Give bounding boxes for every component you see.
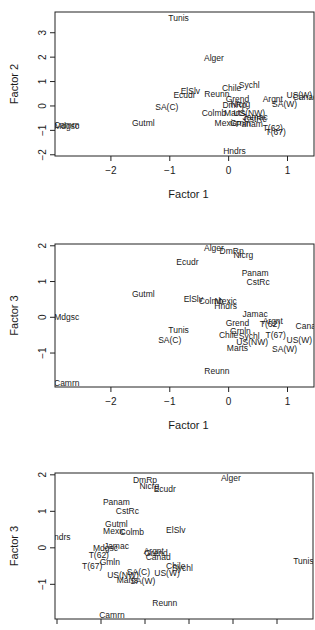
point-label: SA(W) (272, 344, 297, 354)
point-label: Tunis (168, 325, 188, 335)
point-label: Canad (293, 92, 315, 102)
point-label: SA(C) (158, 335, 181, 345)
y-tick-label: −1 (38, 347, 49, 359)
point-label: US(W) (154, 568, 180, 578)
point-label: Marts (227, 343, 248, 353)
plot-factor3-vs-unlabeled: −1012Factor 3AlgerDmRpNicrgEcudrPanamCst… (8, 472, 314, 624)
point-label: Ecudr (154, 484, 176, 494)
point-label: Ecudr (176, 257, 198, 267)
y-tick-label: 0 (38, 103, 49, 109)
point-label: Gutml (132, 289, 155, 299)
point-label: Nicrg (230, 99, 250, 109)
point-label: ElSlv (166, 525, 186, 535)
point-label: Alger (204, 53, 224, 63)
point-label: Gutml (132, 118, 155, 128)
plot-factor1-vs-factor3: −2−101−1012Factor 1Factor 3AlgerDmRpNicr… (8, 243, 315, 431)
y-tick-label: 0 (38, 314, 49, 320)
point-label: Hndrs (223, 146, 246, 156)
x-tick-label: 0 (226, 396, 232, 407)
y-tick-label: 2 (38, 54, 49, 60)
y-axis-label: Factor 3 (8, 295, 20, 335)
y-axis-label: Factor 2 (8, 64, 20, 104)
y-tick-label: 1 (38, 78, 49, 84)
point-labels: AlgerDmRpNicrgEcudrPanamCstRcGutmlElSlvC… (54, 243, 315, 389)
point-label: T(67) (266, 127, 286, 137)
y-tick-label: 1 (38, 508, 49, 514)
y-tick-label: 2 (38, 472, 49, 478)
x-tick-label: −2 (105, 396, 117, 407)
point-label: Canad (296, 321, 315, 331)
y-tick-label: −1 (38, 578, 49, 590)
point-label: Panam (236, 119, 263, 129)
factor-scatter-plots: −2−101−2−10123Factor 1Factor 2TunisAlger… (0, 0, 315, 630)
x-axis-label: Factor 1 (168, 419, 208, 431)
plot-factor1-vs-factor2: −2−101−2−10123Factor 1Factor 2TunisAlger… (8, 12, 315, 200)
point-label: Alger (221, 473, 241, 483)
x-tick-label: −1 (164, 165, 176, 176)
y-tick-label: 3 (38, 30, 49, 36)
y-tick-label: −2 (38, 149, 49, 161)
point-label: SA(C) (155, 102, 178, 112)
point-label: Nicrg (233, 250, 253, 260)
point-label: T(67) (266, 330, 286, 340)
point-label: CstRc (116, 506, 140, 516)
point-labels: TunisAlgerSychlChileElSlvEcudrReunnGrend… (54, 13, 315, 156)
point-label: Sychl (239, 80, 260, 90)
point-label: SA(W) (130, 576, 155, 586)
x-tick-label: −2 (105, 165, 117, 176)
point-label: Gmln (100, 557, 121, 567)
point-label: Camrn (99, 610, 125, 620)
point-label: Mdgsc (54, 312, 80, 322)
x-axis-label: Factor 1 (168, 188, 208, 200)
point-label: Hndrs (214, 301, 237, 311)
y-tick-label: 0 (38, 545, 49, 551)
point-label: Ecudr (173, 90, 195, 100)
point-label: Tunis (293, 556, 313, 566)
x-tick-label: 1 (285, 165, 291, 176)
x-tick-label: 0 (226, 165, 232, 176)
point-labels: AlgerDmRpNicrgEcudrPanamCstRcGutmlElSlvM… (48, 473, 314, 620)
point-label: Colmb (120, 527, 145, 537)
x-tick-label: 1 (285, 396, 291, 407)
point-label: T(62) (260, 319, 280, 329)
point-label: Tunis (168, 13, 188, 23)
point-label: Reunn (204, 366, 229, 376)
y-tick-label: 2 (38, 243, 49, 249)
y-tick-label: −1 (38, 124, 49, 136)
x-tick-label: −1 (164, 396, 176, 407)
point-label: Hndrs (48, 532, 71, 542)
point-label: T(67) (82, 561, 102, 571)
point-label: Reunn (152, 598, 177, 608)
y-axis-label: Factor 3 (8, 526, 20, 566)
y-tick-label: 1 (38, 278, 49, 284)
point-label: CstRc (247, 277, 271, 287)
point-label: Camrn (54, 378, 80, 388)
point-label: Colmb (202, 108, 227, 118)
point-label: Mdgsc (54, 121, 80, 131)
